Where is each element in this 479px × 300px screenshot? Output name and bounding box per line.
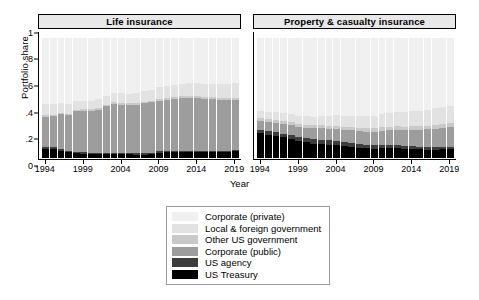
bar xyxy=(88,32,95,158)
bar-segment xyxy=(103,96,110,105)
bar-segment xyxy=(88,101,95,110)
legend-item: US Treasury xyxy=(172,269,321,281)
bar-segment xyxy=(280,124,287,134)
bar-segment xyxy=(224,38,231,84)
bar xyxy=(95,32,102,158)
bar-segment xyxy=(80,154,87,158)
bar xyxy=(310,32,317,158)
panel-property-casualty-insurance: Property & casualty insurance 1994199920… xyxy=(253,14,456,160)
bar-segment xyxy=(186,83,193,96)
bar-segment xyxy=(432,150,439,158)
bar-segment xyxy=(232,83,239,98)
bar-segment xyxy=(133,93,140,103)
bar-segment xyxy=(447,149,454,158)
plot-area xyxy=(253,32,456,160)
bar xyxy=(164,32,171,158)
bar-segment xyxy=(201,38,208,83)
bar-segment xyxy=(111,38,118,93)
bar xyxy=(194,32,201,158)
bar-segment xyxy=(148,154,155,158)
bar-segment xyxy=(171,152,178,158)
bar-segment xyxy=(432,108,439,125)
bar-segment xyxy=(156,153,163,158)
bar-segment xyxy=(103,38,110,96)
bar-segment xyxy=(273,38,280,112)
bar-segment xyxy=(318,38,325,116)
bar-segment xyxy=(156,38,163,87)
bar-segment xyxy=(224,100,231,150)
legend-item: US agency xyxy=(172,257,321,269)
bar-segment xyxy=(164,38,171,86)
bar xyxy=(409,32,416,158)
bar-segment xyxy=(333,115,340,125)
legend-label: US agency xyxy=(205,258,251,268)
bar-segment xyxy=(209,152,216,158)
bar-segment xyxy=(341,130,348,142)
bar-segment xyxy=(394,112,401,126)
bar-segment xyxy=(217,100,224,151)
bar-segment xyxy=(326,38,333,116)
bar-segment xyxy=(409,111,416,126)
bar-segment xyxy=(179,38,186,84)
bar xyxy=(432,32,439,158)
bar xyxy=(171,32,178,158)
bar-segment xyxy=(341,146,348,158)
bar-segment xyxy=(288,139,295,158)
bar-segment xyxy=(333,145,340,158)
bar-segment xyxy=(88,111,95,153)
x-tick-label: 2009 xyxy=(363,165,383,174)
x-tick-label: 1994 xyxy=(35,165,55,174)
bar-segment xyxy=(424,150,431,158)
bar-segment xyxy=(80,101,87,109)
bar-segment xyxy=(439,107,446,124)
bar-segment xyxy=(126,154,133,158)
bar xyxy=(58,32,65,158)
bar-segment xyxy=(280,38,287,113)
bar xyxy=(416,32,423,158)
bar xyxy=(50,32,57,158)
bar-segment xyxy=(424,38,431,110)
bar-segment xyxy=(348,130,355,143)
bar xyxy=(303,32,310,158)
bar-segment xyxy=(379,148,386,158)
legend-swatch xyxy=(172,247,198,256)
bar-segment xyxy=(409,38,416,111)
bar-segment xyxy=(148,38,155,89)
bar-segment xyxy=(356,148,363,158)
bar-segment xyxy=(224,84,231,98)
bar-segment xyxy=(186,98,193,151)
bar-segment xyxy=(310,38,317,116)
bar xyxy=(333,32,340,158)
bar-segment xyxy=(371,149,378,158)
bar-segment xyxy=(232,151,239,158)
legend-item: Other US government xyxy=(172,234,321,246)
bar-segment xyxy=(42,117,49,147)
bar-segment xyxy=(394,148,401,158)
bar-segment xyxy=(348,116,355,127)
bar-segment xyxy=(58,38,65,103)
bar-segment xyxy=(156,87,163,99)
bar-segment xyxy=(118,93,125,103)
bar-segment xyxy=(126,94,133,104)
bar-segment xyxy=(439,128,446,147)
bar-segment xyxy=(201,84,208,97)
bar xyxy=(348,32,355,158)
bar-segment xyxy=(273,123,280,133)
legend-swatch xyxy=(172,235,198,244)
bar-segment xyxy=(118,105,125,153)
bar-segment xyxy=(133,105,140,154)
bar-segment xyxy=(439,149,446,158)
bar-segment xyxy=(447,106,454,123)
bar xyxy=(424,32,431,158)
bar-segment xyxy=(348,147,355,158)
legend-swatch xyxy=(172,258,198,267)
bar-segment xyxy=(295,141,302,158)
bar-segment xyxy=(95,99,102,108)
bar xyxy=(201,32,208,158)
bar-segment xyxy=(371,116,378,128)
bar-segment xyxy=(409,149,416,158)
bar-segment xyxy=(58,114,65,149)
bar-segment xyxy=(73,153,80,158)
bar xyxy=(118,32,125,158)
bar-segment xyxy=(416,130,423,147)
